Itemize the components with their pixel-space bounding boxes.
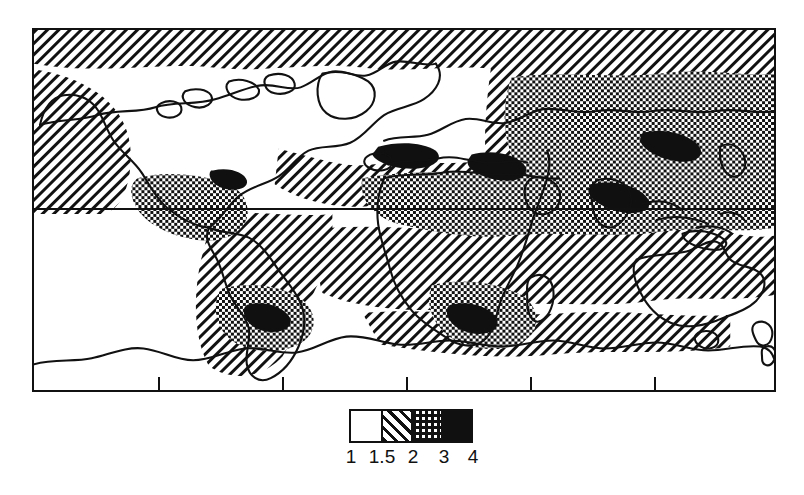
legend-tick-labels: 1 1.5 2 3 4	[349, 446, 473, 470]
equator-line	[34, 208, 774, 210]
legend-swatch-bar	[349, 409, 473, 443]
axis-tick-3	[406, 377, 408, 390]
legend-tick-3: 3	[439, 446, 450, 468]
map-frame	[32, 28, 776, 392]
legend-tick-4: 4	[468, 446, 479, 468]
legend-tick-1: 1.5	[369, 446, 395, 468]
figure-root: 1 1.5 2 3 4	[0, 0, 804, 495]
shading-scale-legend: 1 1.5 2 3 4	[349, 409, 473, 470]
legend-swatch-solid	[441, 411, 471, 441]
axis-tick-1	[158, 377, 160, 390]
map-canvas	[34, 30, 774, 390]
legend-swatch-dotted	[411, 411, 441, 441]
legend-tick-2: 2	[408, 446, 419, 468]
legend-swatch-hatch	[381, 411, 411, 441]
legend-tick-0: 1	[346, 446, 357, 468]
axis-tick-4	[530, 377, 532, 390]
map-shading-layer	[34, 30, 774, 390]
axis-tick-5	[654, 377, 656, 390]
legend-swatch-blank	[351, 411, 381, 441]
axis-tick-2	[282, 377, 284, 390]
